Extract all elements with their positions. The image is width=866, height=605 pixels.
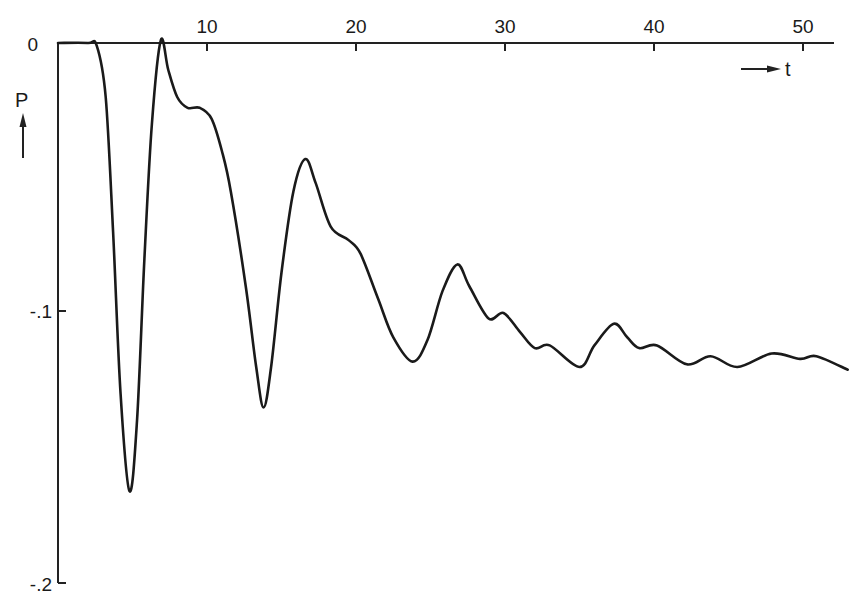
x-axis-arrow-icon bbox=[741, 66, 781, 73]
data-curve bbox=[58, 39, 848, 492]
x-tick-label-50: 50 bbox=[792, 16, 813, 37]
x-ticks: 1020304050 bbox=[196, 16, 813, 51]
x-axis-label: t bbox=[785, 58, 791, 80]
y-tick-label-minus-02: -.2 bbox=[30, 574, 52, 595]
y-axis-label: P bbox=[15, 89, 28, 111]
x-tick-label-40: 40 bbox=[643, 16, 664, 37]
y-tick-label-minus-01: -.1 bbox=[30, 301, 52, 322]
x-tick-label-30: 30 bbox=[494, 16, 515, 37]
line-chart: 1020304050 0 -.1 -.2 P t bbox=[0, 0, 866, 605]
x-tick-label-20: 20 bbox=[345, 16, 366, 37]
y-tick-label-0: 0 bbox=[27, 34, 38, 55]
y-axis-arrow-icon bbox=[20, 113, 27, 158]
x-tick-label-10: 10 bbox=[196, 16, 217, 37]
